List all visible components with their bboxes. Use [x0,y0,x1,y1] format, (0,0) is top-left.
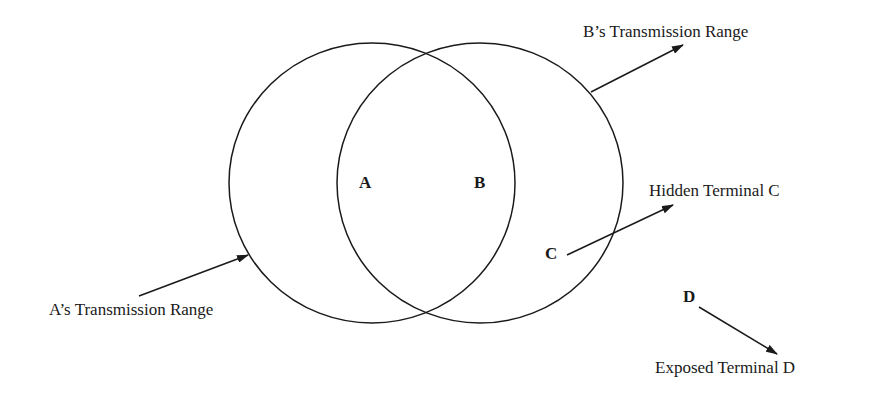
b-range-arrow [591,45,683,92]
node-c: C [545,245,557,262]
node-b: B [474,174,485,191]
a-range-circle [229,43,515,323]
hidden-terminal-label: Hidden Terminal C [649,182,780,199]
exposed-terminal-arrow [699,307,777,354]
exposed-terminal-label: Exposed Terminal D [655,359,795,376]
node-a: A [359,174,371,191]
a-range-arrow [139,255,248,296]
node-d: D [683,288,695,305]
diagram-canvas [0,0,869,405]
b-range-label: B’s Transmission Range [583,23,748,40]
a-range-label: A’s Transmission Range [49,301,213,318]
